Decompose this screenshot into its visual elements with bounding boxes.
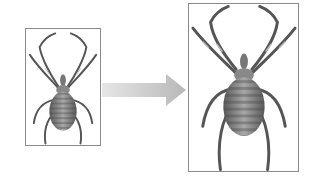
source-spider-image — [25, 28, 101, 146]
spider-illustration-small — [26, 29, 100, 145]
target-spider-image — [188, 3, 299, 172]
spider-illustration-large — [189, 4, 298, 171]
enlarge-arrow-icon — [100, 72, 188, 108]
